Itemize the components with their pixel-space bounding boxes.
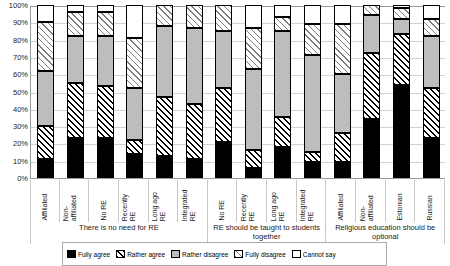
category-cell: Long agoRE bbox=[149, 180, 179, 222]
bar-segment bbox=[126, 154, 143, 178]
legend-label: Fully disagree bbox=[245, 251, 285, 258]
bar-segment bbox=[245, 5, 262, 27]
category-axis-labels: AffiliatedNon-affiliatedNo RERecentlyREL… bbox=[30, 180, 445, 222]
bar-segment bbox=[393, 19, 410, 35]
bar-4 bbox=[126, 6, 143, 178]
category-label: Non-affiliated bbox=[63, 195, 78, 221]
bar-segment bbox=[37, 126, 54, 159]
bar-segment bbox=[423, 138, 440, 178]
category-cell: IntegratedRE bbox=[178, 180, 208, 222]
bar-segment bbox=[393, 85, 410, 178]
bar-segment bbox=[97, 138, 114, 178]
bar-8 bbox=[245, 6, 262, 178]
bar-segment bbox=[363, 5, 380, 15]
bar-segment bbox=[423, 88, 440, 138]
bar-segment bbox=[245, 168, 262, 178]
bar-segment bbox=[363, 53, 380, 119]
bar-segment bbox=[304, 152, 321, 162]
bar-segment bbox=[37, 22, 54, 70]
bar-segment bbox=[67, 83, 84, 138]
group-label-cell: Religious education should be optional bbox=[326, 222, 445, 244]
bar-segment bbox=[393, 8, 410, 18]
bar-5 bbox=[156, 6, 173, 178]
category-label: IntegratedRE bbox=[181, 189, 196, 221]
category-cell: Affiliated bbox=[30, 180, 60, 222]
bar-7 bbox=[215, 6, 232, 178]
legend-item: Fully disagree bbox=[234, 250, 285, 258]
category-label: Long agoRE bbox=[270, 192, 285, 221]
category-cell: Estonian bbox=[386, 180, 416, 222]
category-cell: IntegratedRE bbox=[297, 180, 327, 222]
category-label: IntegratedRE bbox=[300, 189, 315, 221]
bar-segment bbox=[393, 5, 410, 8]
bar-segment bbox=[304, 162, 321, 178]
bar-segment bbox=[304, 55, 321, 152]
bar-segment bbox=[334, 162, 351, 178]
category-label: Affiliated bbox=[41, 194, 49, 221]
category-label: RecentlyRE bbox=[122, 194, 137, 221]
bar-segment bbox=[334, 133, 351, 162]
bar-segment bbox=[215, 31, 232, 88]
bar-1 bbox=[37, 6, 54, 178]
category-cell: Non-affiliated bbox=[60, 180, 90, 222]
legend-item: Cannot say bbox=[292, 250, 336, 258]
category-label: Russian bbox=[426, 196, 434, 221]
category-cell: RecentlyRE bbox=[238, 180, 268, 222]
bar-segment bbox=[37, 159, 54, 178]
legend-label: Cannot say bbox=[303, 251, 336, 258]
y-tick-label: 80% bbox=[13, 37, 28, 45]
category-label: Estonian bbox=[396, 194, 404, 221]
bar-11 bbox=[334, 6, 351, 178]
bar-13 bbox=[393, 6, 410, 178]
legend-swatch bbox=[292, 250, 301, 258]
bar-segment bbox=[97, 12, 114, 36]
bar-segment bbox=[67, 138, 84, 178]
bar-segment bbox=[363, 119, 380, 178]
category-label: No RE bbox=[100, 200, 108, 221]
plot-area bbox=[30, 6, 445, 179]
bar-segment bbox=[126, 5, 143, 38]
bar-segment bbox=[423, 19, 440, 36]
legend-swatch bbox=[67, 250, 76, 258]
bar-segment bbox=[67, 36, 84, 83]
legend-label: Rather agree bbox=[127, 251, 165, 258]
bar-14 bbox=[423, 6, 440, 178]
bar-segment bbox=[97, 36, 114, 86]
bar-segment bbox=[126, 88, 143, 140]
bar-segment bbox=[274, 117, 291, 146]
category-cell: Non-affiliated bbox=[356, 180, 386, 222]
bar-segment bbox=[245, 150, 262, 167]
category-label: No RE bbox=[218, 200, 226, 221]
legend-item: Rather disagree bbox=[171, 250, 228, 258]
y-tick-label: 20% bbox=[13, 140, 28, 148]
group-label-cell: RE should be taught to students together bbox=[208, 222, 327, 244]
bar-segment bbox=[274, 147, 291, 178]
group-label: Religious education should be optional bbox=[326, 223, 444, 241]
bar-segment bbox=[97, 86, 114, 138]
bar-segment bbox=[334, 74, 351, 133]
bar-3 bbox=[97, 6, 114, 178]
legend-swatch bbox=[234, 250, 243, 258]
bar-segment bbox=[156, 26, 173, 97]
bar-series-container bbox=[31, 6, 445, 178]
bar-segment bbox=[67, 5, 84, 12]
bar-10 bbox=[304, 6, 321, 178]
y-axis: 100%90%80%70%60%50%40%30%20%10%0% bbox=[0, 0, 30, 186]
bar-segment bbox=[274, 31, 291, 118]
bar-6 bbox=[186, 6, 203, 178]
bar-segment bbox=[274, 5, 291, 17]
bar-segment bbox=[215, 88, 232, 142]
bar-segment bbox=[245, 28, 262, 70]
bar-segment bbox=[393, 34, 410, 84]
bar-9 bbox=[274, 6, 291, 178]
y-tick-label: 10% bbox=[13, 158, 28, 166]
legend-label: Rather disagree bbox=[182, 251, 228, 258]
category-cell: No RE bbox=[89, 180, 119, 222]
category-label: Affiliated bbox=[337, 194, 345, 221]
bar-segment bbox=[156, 5, 173, 26]
legend-swatch bbox=[171, 250, 180, 258]
bar-segment bbox=[334, 5, 351, 24]
y-tick-label: 100% bbox=[9, 2, 28, 10]
group-label: RE should be taught to students together bbox=[208, 223, 326, 241]
y-tick-label: 70% bbox=[13, 54, 28, 62]
